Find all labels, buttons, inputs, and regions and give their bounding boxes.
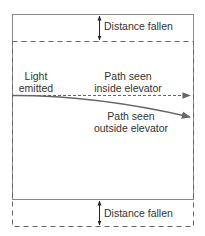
light-emitted-label: Light emitted	[14, 70, 58, 94]
elevator-initial-position	[13, 15, 194, 200]
path-outside-label: Path seen outside elevator	[86, 110, 176, 134]
path-outside-line1: Path seen	[86, 110, 176, 122]
path-inside-label: Path seen inside elevator	[88, 70, 168, 94]
distance-fallen-label-bottom: Distance fallen	[104, 207, 173, 219]
light-emitted-line1: Light	[14, 70, 58, 82]
light-emitted-line2: emitted	[14, 82, 58, 94]
distance-fallen-label-top: Distance fallen	[104, 20, 173, 32]
path-inside-line2: inside elevator	[88, 82, 168, 94]
path-inside-line1: Path seen	[88, 70, 168, 82]
path-outside-line2: outside elevator	[86, 122, 176, 134]
